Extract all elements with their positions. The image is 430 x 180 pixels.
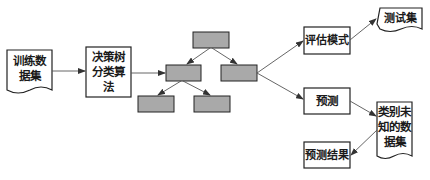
edge-predict-to-unknown	[350, 101, 376, 116]
decision-tree-algo-label: 决策树 分类算 法	[86, 47, 131, 97]
tree-left-right-node	[194, 96, 230, 112]
flow-diagram	[0, 0, 430, 180]
edge-right-to-evaluate	[257, 41, 303, 73]
edge-root-to-right	[212, 48, 237, 64]
edge-left-to-leftleft	[158, 81, 181, 95]
edge-right-to-predict	[257, 73, 303, 99]
tree-left-node	[166, 65, 201, 81]
edge-evaluate-to-testset	[350, 19, 376, 40]
edge-left-to-leftright	[183, 81, 210, 95]
unknown-class-data-label: 类别未 知的数 据集	[377, 102, 412, 152]
training-data-label: 训练数 据集	[7, 50, 52, 88]
edge-unknown-to-result	[351, 130, 377, 155]
tree-root-node	[193, 32, 229, 48]
prediction-result-label: 预测结果	[304, 142, 350, 168]
predict-label: 预测	[304, 88, 350, 114]
evaluate-model-label: 评估模式	[304, 27, 350, 54]
test-set-label: 测试集	[379, 9, 421, 27]
edge-root-to-left	[187, 48, 210, 64]
tree-left-left-node	[138, 96, 174, 112]
tree-right-node	[221, 65, 257, 81]
